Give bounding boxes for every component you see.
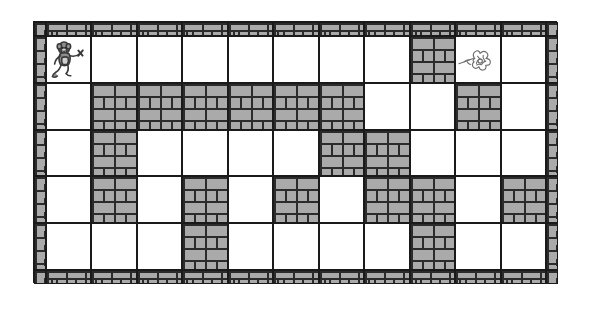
maze-border-bottom (46, 270, 91, 284)
maze-figure (0, 0, 591, 313)
maze-path-cell (501, 130, 546, 177)
maze-border-top (410, 22, 455, 36)
maze-path-cell (273, 223, 318, 270)
maze-wall-cell (182, 83, 227, 130)
maze-wall-cell (182, 223, 227, 270)
maze-path-cell (137, 223, 182, 270)
maze-wall-cell (455, 83, 500, 130)
maze-path-cell (455, 223, 500, 270)
maze-path-cell (364, 36, 409, 83)
maze-path-cell (364, 223, 409, 270)
maze-path-cell (182, 130, 227, 177)
maze-border-right (546, 176, 558, 223)
maze-border-bottom (273, 270, 318, 284)
maze-path-cell (137, 130, 182, 177)
maze-border-corner-top-right (546, 22, 558, 36)
maze-wall-cell (319, 130, 364, 177)
maze-path-cell (228, 36, 273, 83)
maze-border-left (34, 36, 46, 83)
maze-border-right (546, 36, 558, 83)
maze-wall-cell (273, 83, 318, 130)
maze-path-cell (137, 176, 182, 223)
maze-border-top (364, 22, 409, 36)
maze-wall-cell (228, 83, 273, 130)
maze-path-cell (46, 83, 91, 130)
maze-border-left (34, 176, 46, 223)
maze-border-right (546, 83, 558, 130)
maze-path-cell (410, 130, 455, 177)
maze-path-cell (319, 36, 364, 83)
maze-goal-cell (455, 36, 500, 83)
maze-path-cell (137, 36, 182, 83)
maze-path-cell (46, 130, 91, 177)
maze-wall-cell (91, 130, 136, 177)
maze-border-bottom (137, 270, 182, 284)
maze-outer-frame (33, 21, 557, 283)
maze-border-bottom (455, 270, 500, 284)
maze-border-bottom (501, 270, 546, 284)
maze-border-top (46, 22, 91, 36)
maze-border-right (546, 223, 558, 270)
maze-border-top (182, 22, 227, 36)
maze-wall-cell (137, 83, 182, 130)
maze-path-cell (46, 176, 91, 223)
maze-wall-cell (273, 176, 318, 223)
maze-wall-cell (91, 176, 136, 223)
maze-border-bottom (364, 270, 409, 284)
maze-path-cell (410, 83, 455, 130)
maze-path-cell (501, 223, 546, 270)
maze-path-cell (501, 36, 546, 83)
maze-grid (34, 22, 558, 284)
maze-border-left (34, 223, 46, 270)
maze-path-cell (319, 223, 364, 270)
maze-path-cell (455, 130, 500, 177)
maze-border-top (137, 22, 182, 36)
maze-path-cell (91, 223, 136, 270)
maze-path-cell (319, 176, 364, 223)
maze-wall-cell (501, 176, 546, 223)
monkey-icon (51, 39, 87, 79)
maze-border-top (273, 22, 318, 36)
maze-border-bottom (410, 270, 455, 284)
maze-border-bottom (91, 270, 136, 284)
maze-wall-cell (91, 83, 136, 130)
maze-path-cell (46, 223, 91, 270)
maze-path-cell (182, 36, 227, 83)
maze-border-corner-bottom-right (546, 270, 558, 284)
maze-path-cell (273, 36, 318, 83)
maze-border-top (91, 22, 136, 36)
maze-border-top (228, 22, 273, 36)
maze-border-top (455, 22, 500, 36)
maze-wall-cell (410, 223, 455, 270)
maze-wall-cell (410, 36, 455, 83)
maze-path-cell (364, 83, 409, 130)
maze-border-left (34, 130, 46, 177)
maze-wall-cell (182, 176, 227, 223)
maze-path-cell (91, 36, 136, 83)
maze-path-cell (501, 83, 546, 130)
maze-start-cell (46, 36, 91, 83)
maze-border-bottom (319, 270, 364, 284)
maze-border-bottom (228, 270, 273, 284)
maze-wall-cell (410, 176, 455, 223)
maze-path-cell (228, 130, 273, 177)
maze-path-cell (228, 176, 273, 223)
maze-border-corner-top-left (34, 22, 46, 36)
maze-border-top (501, 22, 546, 36)
maze-path-cell (455, 176, 500, 223)
maze-wall-cell (364, 130, 409, 177)
maze-border-left (34, 83, 46, 130)
maze-wall-cell (364, 176, 409, 223)
maze-border-corner-bottom-left (34, 270, 46, 284)
maze-border-right (546, 130, 558, 177)
maze-path-cell (228, 223, 273, 270)
flower-icon (457, 42, 499, 76)
maze-border-top (319, 22, 364, 36)
maze-border-bottom (182, 270, 227, 284)
maze-path-cell (273, 130, 318, 177)
maze-wall-cell (319, 83, 364, 130)
